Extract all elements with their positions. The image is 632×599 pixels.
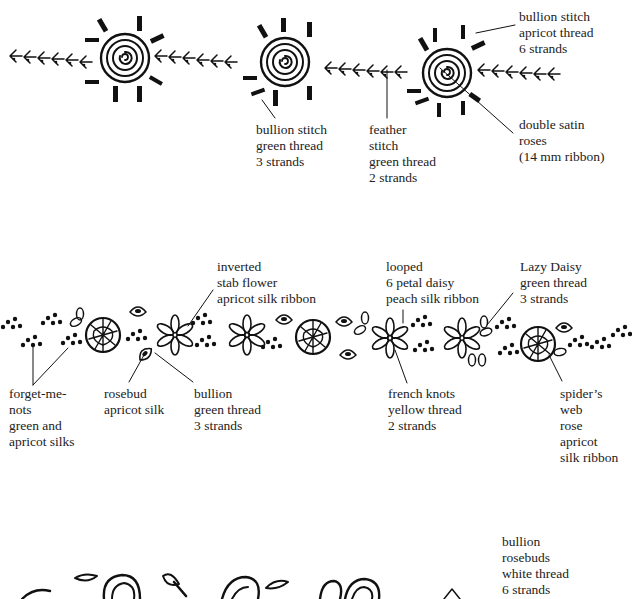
row-1-feather-band — [10, 16, 560, 133]
label-line: green and — [9, 418, 75, 434]
label-line: rosebud — [104, 386, 164, 402]
label-line: web — [560, 402, 618, 418]
label-bullion-rosebuds: bullion rosebuds white thread 6 strands — [502, 534, 569, 598]
label-line: apricot silks — [9, 434, 75, 450]
label-rosebud: rosebud apricot silk — [104, 386, 164, 418]
label-line: white thread — [502, 566, 569, 582]
label-line: rose — [560, 418, 618, 434]
label-line: apricot silk — [104, 402, 164, 418]
label-lazy-daisy: Lazy Daisy green thread 3 strands — [520, 259, 587, 307]
looped-daisy-1 — [228, 315, 267, 355]
label-spiders-web-rose: spider’s web rose apricot silk ribbon — [560, 386, 618, 466]
label-line: 2 strands — [388, 418, 462, 434]
label-line: apricot — [560, 434, 618, 450]
label-line: rosebuds — [502, 550, 569, 566]
label-line: yellow thread — [388, 402, 462, 418]
label-line: green thread — [256, 138, 327, 154]
rosebud-apricot — [136, 345, 154, 363]
label-bullion-green-thread: bullion green thread 3 strands — [194, 386, 261, 434]
label-line: 3 strands — [194, 418, 261, 434]
label-line: stab flower — [217, 275, 316, 291]
label-inverted-stab-flower: inverted stab flower apricot silk ribbon — [217, 259, 316, 307]
looped-daisy-2 — [371, 318, 410, 358]
label-line: Lazy Daisy — [520, 259, 587, 275]
label-line: double satin — [519, 117, 605, 133]
label-line: 6 petal daisy — [386, 275, 479, 291]
lazy-daisy — [443, 318, 482, 358]
spider-web-rose-2 — [296, 320, 330, 354]
label-french-knots: french knots yellow thread 2 strands — [388, 386, 462, 434]
label-forget-me-nots: forget-me- nots green and apricot silks — [9, 386, 75, 450]
label-bullion-stitch-green: bullion stitch green thread 3 strands — [256, 122, 327, 170]
label-line: green thread — [369, 154, 436, 170]
label-line: peach silk ribbon — [386, 291, 479, 307]
row-3-rosebud-band — [22, 574, 460, 599]
label-line: looped — [386, 259, 479, 275]
label-line: 6 strands — [519, 41, 594, 57]
label-line: bullion stitch — [256, 122, 327, 138]
label-line: 6 strands — [502, 582, 569, 598]
label-line: roses — [519, 133, 605, 149]
satin-rose-1 — [85, 16, 165, 102]
label-line: inverted — [217, 259, 316, 275]
satin-rose-3 — [407, 25, 486, 117]
label-line: bullion stitch — [519, 9, 594, 25]
label-line: 3 strands — [256, 154, 327, 170]
label-line: 3 strands — [520, 291, 587, 307]
label-line: (14 mm ribbon) — [519, 149, 605, 165]
label-looped-daisy: looped 6 petal daisy peach silk ribbon — [386, 259, 479, 307]
label-line: silk ribbon — [560, 450, 618, 466]
inverted-stab-flower — [156, 315, 195, 355]
label-bullion-stitch-apricot: bullion stitch apricot thread 6 strands — [519, 9, 594, 57]
label-line: 2 strands — [369, 170, 436, 186]
label-line: feather — [369, 122, 436, 138]
feather-stitch-segment-middle — [155, 50, 237, 68]
label-double-satin-roses: double satin roses (14 mm ribbon) — [519, 117, 605, 165]
label-line: nots — [9, 402, 75, 418]
label-line: apricot silk ribbon — [217, 291, 316, 307]
label-line: spider’s — [560, 386, 618, 402]
satin-rose-2 — [243, 18, 312, 106]
label-line: green thread — [194, 402, 261, 418]
spider-web-rose-1 — [86, 318, 120, 352]
label-line: apricot thread — [519, 25, 594, 41]
label-line: french knots — [388, 386, 462, 402]
label-feather-stitch: feather stitch green thread 2 strands — [369, 122, 436, 186]
feather-stitch-segment-left — [10, 50, 92, 68]
label-line: stitch — [369, 138, 436, 154]
label-line: bullion — [502, 534, 569, 550]
label-line: green thread — [520, 275, 587, 291]
label-line: bullion — [194, 386, 261, 402]
label-line: forget-me- — [9, 386, 75, 402]
